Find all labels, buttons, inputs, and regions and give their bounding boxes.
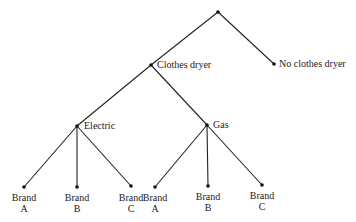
label-gas-brand-c: Brand C [247,191,277,212]
label-electric-brand-b: Brand B [62,193,92,214]
tree-edges [0,0,356,222]
node-electric-brand-c [129,184,133,188]
label-gas-brand-b: Brand B [193,192,223,213]
label-clothes-dryer: Clothes dryer [157,60,211,70]
tree-diagram: Clothes dryer No clothes dryer Electric … [0,0,356,222]
node-electric-brand-a [22,185,26,189]
label-electric-brand-a: Brand A [9,193,39,214]
node-no-clothes-dryer [272,62,276,66]
label-gas: Gas [213,120,229,130]
node-gas [205,123,209,127]
label-gas-brand-a: Brand A [140,193,170,214]
node-gas-brand-a [153,185,157,189]
label-electric: Electric [84,121,115,131]
node-root [216,10,220,14]
node-gas-brand-b [206,184,210,188]
node-clothes-dryer [149,63,153,67]
node-gas-brand-c [260,183,264,187]
node-electric [75,124,79,128]
node-electric-brand-b [75,185,79,189]
label-no-clothes-dryer: No clothes dryer [279,59,346,69]
